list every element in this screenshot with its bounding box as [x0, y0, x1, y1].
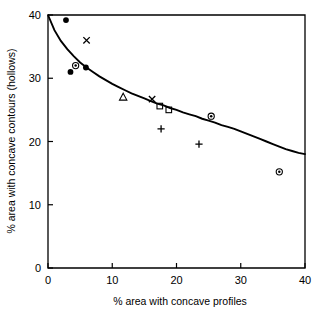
- x-tick-label: 30: [235, 274, 247, 286]
- x-axis-tick-labels: 010203040: [45, 274, 311, 286]
- data-point-plus: [195, 140, 202, 147]
- y-axis-tick-labels: 010203040: [29, 9, 41, 274]
- data-point-plus: [157, 125, 164, 132]
- data-point-filled-circle: [83, 65, 89, 71]
- y-axis-tick-marks: [48, 15, 53, 268]
- circle-dot-marker-center: [278, 171, 281, 174]
- y-tick-label: 10: [29, 199, 41, 211]
- data-point-filled-circle: [63, 17, 69, 23]
- x-tick-label: 10: [106, 274, 118, 286]
- circle-dot-marker-center: [74, 64, 77, 67]
- plus-marker: [157, 125, 164, 132]
- data-point-circle-dot: [73, 63, 79, 69]
- filled-circle-marker: [83, 65, 89, 71]
- trend-line-curve: [48, 15, 305, 154]
- x-axis-title: % area with concave profiles: [113, 295, 247, 307]
- y-tick-label: 30: [29, 72, 41, 84]
- data-point-markers: [63, 17, 282, 175]
- circle-dot-marker-center: [210, 115, 213, 118]
- data-point-filled-circle: [68, 69, 74, 75]
- x-tick-label: 0: [45, 274, 51, 286]
- plus-marker: [195, 140, 202, 147]
- y-axis-title: % area with concave contours (hollows): [5, 48, 17, 233]
- plot-canvas: 010203040 010203040 % area with concave …: [0, 0, 322, 314]
- cross-marker: [83, 37, 89, 43]
- open-triangle-marker: [119, 93, 126, 100]
- x-tick-label: 20: [170, 274, 182, 286]
- data-point-cross: [83, 37, 89, 43]
- y-tick-label: 20: [29, 136, 41, 148]
- x-tick-label: 40: [299, 274, 311, 286]
- y-tick-label: 40: [29, 9, 41, 21]
- x-axis-tick-marks: [48, 263, 305, 268]
- filled-circle-marker: [63, 17, 69, 23]
- y-tick-label: 0: [35, 262, 41, 274]
- filled-circle-marker: [68, 69, 74, 75]
- data-point-circle-dot: [276, 169, 282, 175]
- data-point-open-triangle: [119, 93, 126, 100]
- scatter-plot-figure: 010203040 010203040 % area with concave …: [0, 0, 322, 314]
- data-point-circle-dot: [208, 113, 214, 119]
